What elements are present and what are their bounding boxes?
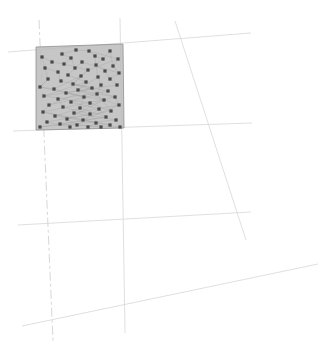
point-marker <box>113 95 116 98</box>
point-marker <box>108 49 111 52</box>
point-marker <box>62 62 65 65</box>
point-marker <box>73 66 76 69</box>
point-marker <box>78 106 81 109</box>
point-marker <box>99 125 102 128</box>
point-marker <box>46 77 49 80</box>
point-marker <box>45 120 48 123</box>
point-marker <box>81 118 84 121</box>
point-marker <box>74 48 77 51</box>
point-marker <box>106 89 109 92</box>
point-marker <box>80 60 83 63</box>
point-marker <box>99 83 102 86</box>
point-marker <box>94 63 97 66</box>
point-marker <box>64 91 67 94</box>
point-marker <box>86 125 89 128</box>
point-marker <box>108 123 111 126</box>
point-marker <box>117 103 120 106</box>
point-marker <box>94 121 97 124</box>
point-marker <box>114 118 117 121</box>
point-marker <box>101 57 104 60</box>
point-marker <box>118 125 121 128</box>
point-marker <box>88 101 91 104</box>
point-marker <box>82 95 85 98</box>
point-marker <box>53 114 56 117</box>
point-marker <box>58 122 61 125</box>
point-marker <box>109 109 112 112</box>
point-marker <box>86 68 89 71</box>
point-marker <box>68 125 71 128</box>
point-marker <box>40 55 43 58</box>
point-marker <box>75 123 78 126</box>
point-marker <box>69 56 72 59</box>
point-marker <box>95 92 98 95</box>
point-marker <box>97 107 100 110</box>
point-marker <box>76 88 79 91</box>
point-marker <box>117 71 120 74</box>
point-marker <box>87 49 90 52</box>
point-marker <box>71 82 74 85</box>
point-marker <box>61 105 64 108</box>
point-marker <box>66 73 69 76</box>
point-marker <box>72 111 75 114</box>
point-marker <box>50 60 53 63</box>
point-marker <box>38 125 41 128</box>
point-marker <box>115 83 118 86</box>
point-marker <box>79 74 82 77</box>
point-marker <box>52 87 55 90</box>
point-marker <box>108 77 111 80</box>
point-marker <box>84 80 87 83</box>
point-marker <box>111 64 114 67</box>
point-marker <box>60 52 63 55</box>
point-marker <box>116 57 119 60</box>
point-marker <box>41 110 44 113</box>
point-marker <box>43 66 46 69</box>
figure-canvas <box>0 0 323 357</box>
point-marker <box>96 75 99 78</box>
point-marker <box>104 115 107 118</box>
point-marker <box>103 69 106 72</box>
point-marker <box>56 70 59 73</box>
point-marker <box>65 117 68 120</box>
point-marker <box>42 94 45 97</box>
point-marker <box>88 112 91 115</box>
point-marker <box>102 98 105 101</box>
point-marker <box>47 103 50 106</box>
point-marker <box>56 97 59 100</box>
point-marker <box>93 54 96 57</box>
point-marker <box>59 79 62 82</box>
point-marker <box>38 85 41 88</box>
point-marker <box>69 100 72 103</box>
point-marker <box>90 86 93 89</box>
figure-root <box>0 0 323 357</box>
